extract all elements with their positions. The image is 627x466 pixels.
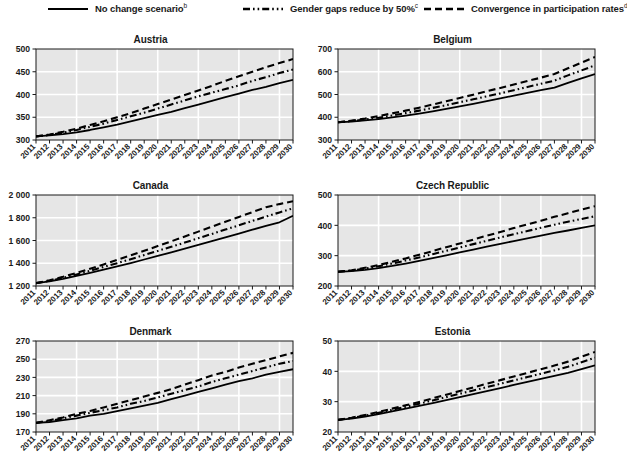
y-tick-label: 40 <box>322 367 332 377</box>
legend-item-label: No change scenariob <box>95 4 187 14</box>
y-tick-label: 600 <box>318 67 333 77</box>
chart-panel-grid: Austria300350400450500201120122013201420… <box>0 26 603 466</box>
plot-area: 3004005006007002011201220132014201520162… <box>302 26 603 172</box>
solid-line-icon <box>48 4 88 14</box>
y-tick-label: 500 <box>16 44 31 54</box>
y-tick-label: 250 <box>16 354 31 364</box>
y-tick-label: 500 <box>318 190 333 200</box>
y-tick-label: 1 600 <box>8 236 30 246</box>
chart-panel-canada: Canada1 2001 4001 6001 8002 000201120122… <box>0 172 301 318</box>
y-tick-label: 1 800 <box>8 213 30 223</box>
chart-panel-austria: Austria300350400450500201120122013201420… <box>0 26 301 172</box>
legend-item-2: Convergence in participation ratesd <box>424 4 627 14</box>
x-tick-label: 2030 <box>275 434 294 453</box>
chart-panel-denmark: Denmark170190210230250270201120122013201… <box>0 318 301 464</box>
y-tick-label: 50 <box>322 336 332 346</box>
y-tick-label: 190 <box>16 409 31 419</box>
y-tick-label: 450 <box>16 67 31 77</box>
y-tick-label: 1 400 <box>8 258 30 268</box>
y-tick-label: 210 <box>16 391 31 401</box>
y-tick-label: 30 <box>322 397 332 407</box>
y-tick-label: 350 <box>16 112 31 122</box>
legend-item-1: Gender gaps reduce by 50%c <box>243 4 418 14</box>
chart-panel-belgium: Belgium300400500600700201120122013201420… <box>302 26 603 172</box>
plot-area: 2030405020112012201320142015201620172018… <box>302 318 603 464</box>
x-tick-label: 2030 <box>577 288 596 307</box>
y-tick-label: 400 <box>318 112 333 122</box>
chart-panel-czech-republic: Czech Republic20030040050020112012201320… <box>302 172 603 318</box>
chart-legend: No change scenariobGender gaps reduce by… <box>0 0 603 26</box>
y-tick-label: 2 000 <box>8 190 30 200</box>
y-tick-label: 230 <box>16 373 31 383</box>
dash-dot-line-icon <box>243 4 283 14</box>
legend-footnote-marker: c <box>415 2 418 9</box>
plot-area: 2003004005002011201220132014201520162017… <box>302 172 603 318</box>
y-tick-label: 1 200 <box>8 281 30 291</box>
y-tick-label: 700 <box>318 44 333 54</box>
y-tick-label: 400 <box>318 221 333 231</box>
x-tick-label: 2030 <box>275 142 294 161</box>
x-tick-label: 2030 <box>577 434 596 453</box>
dashed-line-icon <box>424 4 464 14</box>
legend-footnote-marker: b <box>183 2 187 9</box>
legend-item-label: Gender gaps reduce by 50%c <box>290 4 418 14</box>
plot-area: 3003504004505002011201220132014201520162… <box>0 26 301 172</box>
y-tick-label: 300 <box>318 251 333 261</box>
plot-area: 1 2001 4001 6001 8002 000201120122013201… <box>0 172 301 318</box>
legend-item-label: Convergence in participation ratesd <box>471 4 627 14</box>
y-tick-label: 270 <box>16 336 31 346</box>
x-tick-label: 2030 <box>275 288 294 307</box>
legend-item-0: No change scenariob <box>48 4 187 14</box>
y-tick-label: 400 <box>16 90 31 100</box>
y-tick-label: 500 <box>318 90 333 100</box>
x-tick-label: 2030 <box>577 142 596 161</box>
plot-area: 1701902102302502702011201220132014201520… <box>0 318 301 464</box>
chart-panel-estonia: Estonia203040502011201220132014201520162… <box>302 318 603 464</box>
